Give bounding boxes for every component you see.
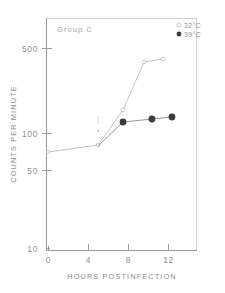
plot-frame xyxy=(46,19,197,251)
chart-figure: 500 100 50 10 0 4 8 12 Group C 32°C 39°C xyxy=(0,0,225,293)
series-32c-point xyxy=(121,108,125,112)
legend-marker-filled-circle xyxy=(177,32,182,37)
x-axis-ticks xyxy=(49,244,169,251)
series-39c-line xyxy=(98,117,172,146)
x-tick-label-8: 8 xyxy=(126,255,131,265)
series-39c-point xyxy=(169,114,176,121)
x-axis-title: HOURS POSTINFECTION xyxy=(67,272,177,281)
y-tick-label-10: 10 xyxy=(27,244,38,254)
series-39c-point xyxy=(149,116,156,123)
legend-label-32c: 32°C xyxy=(184,22,201,29)
legend: 32°C 39°C xyxy=(177,22,202,38)
legend-marker-open-circle xyxy=(177,23,181,27)
series-39c xyxy=(98,114,175,146)
series-32c-point xyxy=(161,57,165,61)
x-tick-label-0: 0 xyxy=(46,255,51,265)
y-axis-title: COUNTS PER MINUTE xyxy=(9,85,18,183)
legend-label-39c: 39°C xyxy=(184,31,201,38)
series-39c-point xyxy=(120,119,127,126)
group-label: Group C xyxy=(57,25,93,34)
y-tick-label-500: 500 xyxy=(22,44,38,54)
y-tick-label-100: 100 xyxy=(22,129,38,139)
x-tick-label-4: 4 xyxy=(86,255,91,265)
chart-canvas: 500 100 50 10 0 4 8 12 Group C 32°C 39°C xyxy=(0,0,225,293)
scan-artifacts xyxy=(97,116,99,132)
y-tick-label-50: 50 xyxy=(27,166,38,176)
artifact-dot xyxy=(97,130,99,132)
series-32c-line xyxy=(48,59,163,152)
series-32c-point xyxy=(142,60,146,64)
series-32c-point xyxy=(46,150,49,153)
x-tick-label-12: 12 xyxy=(163,255,174,265)
